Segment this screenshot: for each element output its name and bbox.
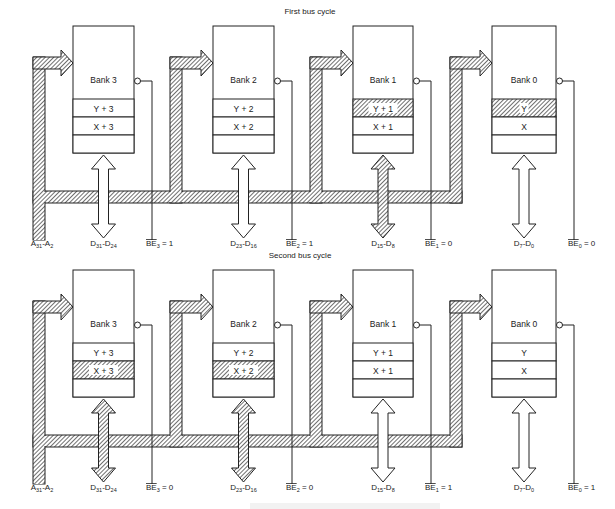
byte-enable-line (420, 81, 432, 240)
bank-name: Bank 2 (230, 75, 257, 85)
bank-2: Bank 2Y + 2X + 2D23-D16BE2 = 1 (213, 26, 314, 249)
data-bus-arrow (512, 155, 536, 238)
address-bus-label: A31-A2 (31, 483, 54, 493)
memory-cell-label: Y + 3 (94, 348, 114, 358)
byte-enable-line (141, 81, 153, 240)
byte-enable-line (563, 81, 575, 240)
memory-cell-label: Y + 3 (94, 104, 114, 114)
memory-cell (492, 379, 556, 397)
memory-cell-label: X (521, 122, 527, 132)
memory-cell (492, 135, 556, 153)
bus-cycle-diagram: First bus cycleA31-A2Bank 3Y + 3X + 3D31… (0, 0, 615, 509)
bank-0: Bank 0YXD7-D0BE0 = 0 (492, 26, 596, 249)
memory-cell (213, 379, 274, 397)
byte-enable-label: BE0 = 1 (568, 483, 596, 493)
data-bus-label: D7-D0 (514, 239, 534, 249)
byte-enable-label: BE1 = 1 (425, 483, 453, 493)
active-low-bubble (557, 322, 563, 328)
memory-cell (213, 135, 274, 153)
active-low-bubble (275, 322, 281, 328)
bank-name: Bank 1 (370, 319, 397, 329)
bank-3: Bank 3Y + 3X + 3D31-D24BE3 = 1 (73, 26, 174, 249)
bus-cycle-2: Second bus cycleA31-A2Bank 3Y + 3X + 3D3… (31, 251, 596, 493)
memory-cell-label: X + 2 (233, 122, 253, 132)
memory-cell-label: X + 1 (373, 122, 393, 132)
bank-name: Bank 2 (230, 319, 257, 329)
memory-cell-label: X + 2 (233, 366, 253, 376)
data-bus-arrow (512, 399, 536, 482)
active-low-bubble (414, 322, 420, 328)
memory-cell-label: Y + 2 (234, 104, 254, 114)
data-bus-label: D31-D24 (90, 483, 116, 493)
active-low-bubble (557, 78, 563, 84)
data-bus-label: D31-D24 (90, 239, 116, 249)
byte-enable-line (563, 325, 575, 484)
memory-cell-label: Y (521, 104, 527, 114)
byte-enable-line (420, 325, 432, 484)
bank-name: Bank 0 (511, 319, 538, 329)
bank-name: Bank 1 (370, 75, 397, 85)
byte-enable-label: BE2 = 1 (286, 239, 314, 249)
caption-cutoff (250, 503, 440, 509)
memory-cell-label: X + 3 (93, 366, 113, 376)
byte-enable-label: BE3 = 1 (146, 239, 174, 249)
bank-0: Bank 0YXD7-D0BE0 = 1 (492, 270, 596, 493)
cycle-title: Second bus cycle (269, 251, 332, 260)
memory-cell-label: Y (521, 348, 527, 358)
memory-cell (73, 135, 134, 153)
address-bus-riser (310, 301, 322, 447)
data-bus-label: D23-D16 (230, 483, 256, 493)
memory-cell (73, 379, 134, 397)
byte-enable-line (281, 325, 293, 484)
bank-2: Bank 2Y + 2X + 2D23-D16BE2 = 0 (213, 270, 314, 493)
memory-cell (353, 135, 413, 153)
memory-cell-label: X + 3 (93, 122, 113, 132)
byte-enable-line (141, 325, 153, 484)
memory-cell-label: X (521, 366, 527, 376)
byte-enable-label: BE2 = 0 (286, 483, 314, 493)
bank-3: Bank 3Y + 3X + 3D31-D24BE3 = 0 (73, 270, 174, 493)
address-bus-riser (450, 57, 462, 203)
address-bus-riser (310, 57, 322, 203)
active-low-bubble (135, 322, 141, 328)
data-bus-label: D15-D8 (371, 239, 394, 249)
memory-cell-label: Y + 2 (234, 348, 254, 358)
memory-cell-label: X + 1 (373, 366, 393, 376)
address-bus-riser (450, 301, 462, 447)
byte-enable-line (281, 81, 293, 240)
address-bus-label: A31-A2 (31, 239, 54, 249)
cycle-title: First bus cycle (284, 7, 336, 16)
address-bus-riser (170, 57, 182, 203)
active-low-bubble (414, 78, 420, 84)
bank-name: Bank 0 (511, 75, 538, 85)
data-bus-label: D7-D0 (514, 483, 534, 493)
bus-cycle-1: First bus cycleA31-A2Bank 3Y + 3X + 3D31… (31, 7, 596, 249)
bank-name: Bank 3 (90, 75, 117, 85)
active-low-bubble (135, 78, 141, 84)
address-bus-riser (170, 301, 182, 447)
byte-enable-label: BE0 = 0 (568, 239, 596, 249)
bank-name: Bank 3 (90, 319, 117, 329)
byte-enable-label: BE3 = 0 (146, 483, 174, 493)
memory-cell-label: Y + 1 (373, 348, 393, 358)
active-low-bubble (275, 78, 281, 84)
data-bus-label: D15-D8 (371, 483, 394, 493)
memory-cell (353, 379, 413, 397)
bank-1: Bank 1Y + 1X + 1D15-D8BE1 = 0 (353, 26, 453, 249)
bank-1: Bank 1Y + 1X + 1D15-D8BE1 = 1 (353, 270, 453, 493)
data-bus-label: D23-D16 (230, 239, 256, 249)
byte-enable-label: BE1 = 0 (425, 239, 453, 249)
memory-cell-label: Y + 1 (373, 104, 393, 114)
